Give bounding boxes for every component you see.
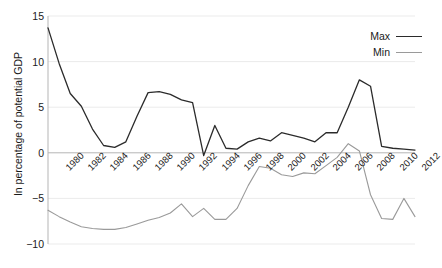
x-axis-tick-label: 2004 <box>330 150 353 173</box>
x-axis-tick-label: 2010 <box>397 150 420 173</box>
x-axis-tick-label: 1994 <box>219 150 242 173</box>
x-axis-tick-label: 1996 <box>241 150 264 173</box>
x-axis-tick-label: 2012 <box>419 150 442 173</box>
legend-label: Min <box>373 46 390 58</box>
y-axis-tick-label: −10 <box>16 238 44 250</box>
legend-line-swatch <box>396 36 422 37</box>
x-axis-tick-layer: 1980198219841986198819901992199419961998… <box>48 150 415 210</box>
x-axis-tick-label: 1992 <box>197 150 220 173</box>
x-axis-tick-label: 2000 <box>286 150 309 173</box>
chart-legend: MaxMin <box>352 28 422 60</box>
x-axis-tick-label: 1990 <box>174 150 197 173</box>
x-axis-tick-label: 1986 <box>130 150 153 173</box>
y-axis-tick-label: 15 <box>16 10 44 22</box>
x-axis-tick-label: 1988 <box>152 150 175 173</box>
legend-label: Max <box>370 30 390 42</box>
x-axis-tick-label: 1980 <box>63 150 86 173</box>
x-axis-tick-label: 1984 <box>108 150 131 173</box>
x-axis-tick-label: 2008 <box>375 150 398 173</box>
x-axis-tick-label: 1982 <box>85 150 108 173</box>
y-axis-title: In percentage of potential GDP <box>12 24 24 224</box>
legend-entry-min[interactable]: Min <box>352 44 422 60</box>
x-axis-tick-label: 1998 <box>263 150 286 173</box>
legend-line-swatch <box>396 52 422 53</box>
x-axis-tick-label: 2002 <box>308 150 331 173</box>
x-axis-tick-label: 2006 <box>352 150 375 173</box>
legend-entry-max[interactable]: Max <box>352 28 422 44</box>
